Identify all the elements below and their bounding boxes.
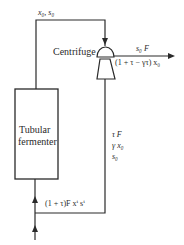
arrow-up-icon [32, 196, 38, 203]
centrifuge-body [97, 59, 115, 79]
flow-diagram [0, 0, 184, 245]
centrifuge-dome [97, 47, 114, 57]
fermenter-label-line2: fermenter [18, 137, 57, 147]
feed-stream-label: (1 + τ)F xⁱ sⁱ [45, 200, 85, 208]
arrow-down-icon [102, 38, 108, 45]
product-stream-label-1: s₀ F [136, 45, 149, 53]
arrow-up-icon [32, 225, 38, 232]
recycle-stream-label-2: γ x₀ [112, 142, 123, 150]
arrow-right-icon [168, 53, 175, 59]
recycle-stream-label-1: τ F [112, 131, 122, 139]
fermenter-label-line1: Tubular [19, 125, 50, 135]
outlet-stream-label: x₀, s₀ [38, 9, 54, 17]
product-stream-label-2: (1 + τ − γτ) x₀ [115, 59, 160, 67]
recycle-stream-label-3: s₀ [112, 153, 118, 161]
centrifuge-label: Centrifuge [53, 47, 96, 57]
